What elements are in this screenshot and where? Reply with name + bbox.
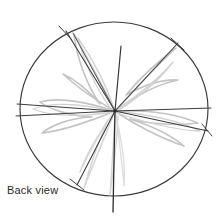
axis-lower-left	[77, 111, 115, 185]
axis-upper-left	[66, 31, 115, 111]
axis-tick-lower-left	[70, 179, 84, 190]
axis-up	[115, 46, 121, 111]
axis-tick-upper-left	[59, 26, 72, 40]
origin-point	[113, 109, 116, 112]
axis-right	[115, 108, 211, 111]
axis-upper-right	[115, 43, 178, 111]
figure-container: Back view	[0, 0, 222, 222]
caption-label: Back view	[7, 184, 58, 197]
lobe-group	[33, 34, 200, 195]
lobe-upper-left	[63, 34, 115, 111]
axis-upper-left-inner	[73, 33, 115, 111]
lobe-down-inner	[115, 111, 124, 186]
